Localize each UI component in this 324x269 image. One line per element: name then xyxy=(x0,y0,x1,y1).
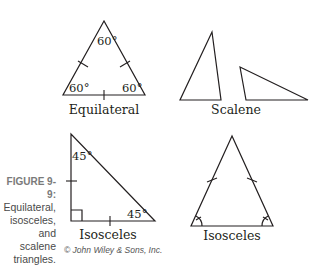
isosceles-right-label: Isosceles xyxy=(79,227,137,242)
caption-line: triangles. xyxy=(13,253,56,265)
isosceles-acute-triangle: Isosceles xyxy=(191,136,273,243)
isosceles-acute-label: Isosceles xyxy=(203,228,261,243)
caption-line: and scalene xyxy=(20,227,56,252)
copyright-credit: © John Wiley & Sons, Inc. xyxy=(64,245,162,255)
scalene-label: Scalene xyxy=(211,102,261,117)
equilateral-label: Equilateral xyxy=(69,102,139,117)
isosceles-right-angle-label: 45° xyxy=(127,207,147,221)
caption-line: Equilateral, xyxy=(3,201,56,213)
equilateral-left-angle: 60° xyxy=(69,81,89,95)
equilateral-right-angle: 60° xyxy=(122,81,142,95)
isosceles-right-triangle: 45° 45° Isosceles xyxy=(66,134,155,242)
caption-line: isosceles, xyxy=(10,214,56,226)
scalene-triangles: Scalene xyxy=(180,32,308,117)
isosceles-top-angle: 45° xyxy=(72,149,92,163)
equilateral-triangle: 60° 60° 60° Equilateral xyxy=(63,21,145,117)
equilateral-top-angle: 60° xyxy=(97,34,117,48)
figure-number: FIGURE 9-9: xyxy=(0,175,56,201)
triangles-figure: 60° 60° 60° Equilateral Scalene 45° 45° … xyxy=(0,0,324,269)
figure-caption: FIGURE 9-9: Equilateral, isosceles, and … xyxy=(0,175,56,266)
